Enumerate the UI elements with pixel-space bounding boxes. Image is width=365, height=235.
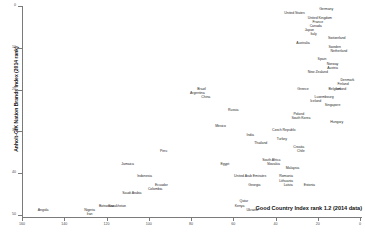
data-point-label: Iran — [87, 213, 93, 217]
data-point-label: Czech Republic — [272, 130, 296, 134]
data-point-label: Chile — [297, 151, 305, 155]
data-point-label: Netherland — [331, 50, 348, 54]
y-axis-title: Anholt-GfK Nation Brands Index (2014 ran… — [13, 37, 19, 161]
x-tick-label: 160 — [11, 223, 33, 227]
data-point-label: Spain — [318, 59, 327, 63]
data-point-label: Colombia — [148, 188, 162, 192]
x-tick-mark — [64, 217, 65, 221]
y-tick-label: 0 — [0, 4, 16, 8]
x-tick-mark — [360, 217, 361, 221]
data-point-label: Thailand — [254, 142, 267, 146]
y-tick-label: 10 — [0, 46, 16, 50]
y-tick-label: 50 — [0, 213, 16, 217]
data-point-label: Kenya — [235, 205, 245, 209]
data-point-label: Singapore — [325, 105, 341, 109]
x-tick-mark — [149, 217, 150, 221]
data-point-label: Greece — [297, 88, 308, 92]
data-point-label: Ireland — [336, 88, 346, 92]
data-point-label: Jamaica — [121, 163, 134, 167]
x-tick-label: 140 — [53, 223, 75, 227]
data-point-label: Indonesia — [137, 176, 152, 180]
data-point-label: Brazil — [197, 88, 205, 92]
data-point-label: United States — [284, 13, 304, 17]
x-tick-mark — [107, 217, 108, 221]
data-point-label: Mexico — [215, 125, 226, 129]
x-axis-line — [22, 217, 362, 218]
data-point-label: Russia — [228, 109, 238, 113]
scatter-chart-figure: Anholt-GfK Nation Brands Index (2014 ran… — [0, 0, 365, 235]
data-point-label: Georgia — [248, 184, 260, 188]
x-tick-label: 40 — [265, 223, 287, 227]
data-point-label: Latvia — [284, 184, 293, 188]
x-tick-label: 60 — [222, 223, 244, 227]
data-point-label: Estonia — [304, 184, 315, 188]
data-point-label: New Zealand — [308, 71, 328, 75]
y-tick-label: 40 — [0, 171, 16, 175]
x-tick-mark — [318, 217, 319, 221]
y-tick-label: 20 — [0, 88, 16, 92]
data-point-label: India — [246, 134, 253, 138]
data-point-label: Turkey — [277, 138, 287, 142]
data-point-label: Slovakia — [267, 163, 280, 167]
data-point-label: Angola — [38, 209, 49, 213]
x-tick-mark — [22, 217, 23, 221]
x-tick-mark — [191, 217, 192, 221]
data-point-label: Argentina — [190, 92, 205, 96]
data-point-label: South Korea — [291, 117, 310, 121]
x-tick-label: 80 — [180, 223, 202, 227]
x-tick-label: 120 — [96, 223, 118, 227]
x-tick-mark — [233, 217, 234, 221]
data-point-label: Australia — [296, 42, 309, 46]
data-point-label: Peru — [160, 151, 167, 155]
data-point-label: United Arab Emirates — [234, 176, 266, 180]
x-tick-mark — [276, 217, 277, 221]
data-point-label: Hungary — [330, 121, 343, 125]
data-point-label: Ukraine — [246, 209, 258, 213]
data-point-label: Malaysia — [286, 167, 299, 171]
y-tick-mark — [18, 215, 23, 216]
data-point-label: Egypt — [220, 163, 229, 167]
data-point-label: China — [201, 96, 210, 100]
data-point-label: Germany — [319, 8, 333, 12]
data-point-label: Kazakhstan — [108, 205, 126, 209]
x-tick-label: 100 — [138, 223, 160, 227]
x-tick-label: 20 — [307, 223, 329, 227]
x-tick-label: 0 — [349, 223, 365, 227]
data-point-label: Switzerland — [328, 38, 346, 42]
data-point-label: Iceland — [310, 100, 321, 104]
data-point-label: Saudi Arabia — [122, 192, 141, 196]
y-tick-label: 30 — [0, 129, 16, 133]
data-point-label: Italy — [310, 34, 316, 38]
data-point-label: Austria — [327, 67, 338, 71]
